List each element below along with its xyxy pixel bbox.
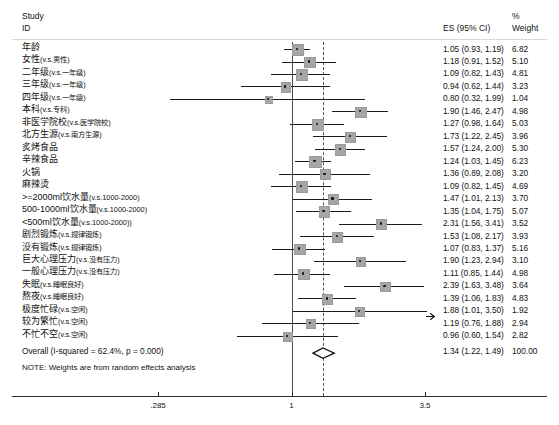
study-label-main: 火锅	[22, 167, 40, 177]
weight-box	[281, 82, 292, 93]
pooled-estimate-line	[323, 42, 324, 396]
weight-value: 4.98	[512, 269, 528, 277]
study-label-main: 三年级	[22, 79, 49, 89]
point-estimate-marker	[300, 73, 302, 75]
study-label: <500ml饮水量(v.s.1000-2000))	[22, 218, 132, 227]
study-label-main: 年龄	[22, 42, 40, 52]
weight-value: 4.81	[512, 69, 528, 77]
weight-box	[332, 232, 343, 243]
note-text: NOTE: Weights are from random effects an…	[22, 364, 196, 372]
study-label: >=2000ml饮水量(v.s.1000-2000)	[22, 193, 140, 202]
study-label-comparator: (v.s.南方生源)	[58, 130, 102, 139]
study-label-comparator: (v.s.男性)	[40, 55, 70, 64]
study-label-comparator: (v.s.睡眠良好)	[40, 280, 84, 289]
axis-tick	[292, 392, 293, 396]
effect-size-value: 1.09 (0.82, 1.45)	[443, 182, 504, 190]
study-label-main: 女性	[22, 54, 40, 64]
point-estimate-marker	[284, 85, 286, 87]
weight-value: 3.96	[512, 132, 528, 140]
study-label-main: 熬夜	[22, 291, 40, 301]
weight-value: 1.04	[512, 94, 528, 102]
study-label-comparator: (v.s.1000-2000)	[97, 205, 148, 214]
study-label: 三年级(v.s.一年级)	[22, 80, 86, 89]
study-label-comparator: (v.s.没有压力)	[76, 255, 120, 264]
effect-size-value: 1.18 (0.91, 1.52)	[443, 57, 504, 65]
study-label-main: 剧烈锻炼	[22, 229, 58, 239]
study-label-main: 500-1000ml饮水量	[22, 204, 97, 214]
study-label-main: 巨大心理压力	[22, 254, 76, 264]
effect-size-value: 1.57 (1.24, 2.00)	[443, 144, 504, 152]
study-label-comparator: (v.s.1000-2000))	[79, 218, 132, 227]
effect-size-value: 1.11 (0.85, 1.44)	[443, 269, 503, 277]
study-label-main: 一般心理压力	[22, 266, 76, 276]
study-label-comparator: (v.s.规律锻炼)	[58, 243, 102, 252]
weight-box	[355, 107, 367, 119]
weight-value: 5.03	[512, 119, 528, 127]
overall-diamond	[311, 346, 336, 358]
axis-tick	[158, 392, 159, 396]
study-label-comparator: (v.s.一年级)	[49, 93, 86, 102]
effect-size-value: 1.36 (0.89, 2.08)	[443, 169, 504, 177]
study-label-comparator: (v.s.一年级)	[49, 68, 86, 77]
weight-box	[296, 69, 308, 81]
ci-right-arrow	[426, 307, 435, 316]
study-label: 二年级(v.s.一年级)	[22, 68, 86, 77]
weight-value: 4.69	[512, 182, 528, 190]
weight-value: 2.82	[512, 331, 528, 339]
study-label-main: 北方生源	[22, 129, 58, 139]
weight-box	[283, 332, 293, 342]
study-label-comparator: (v.s.空闲)	[58, 330, 88, 339]
weight-value: 4.83	[512, 294, 528, 302]
study-label: 500-1000ml饮水量(v.s.1000-2000)	[22, 205, 147, 214]
study-label-comparator: (v.s.专科)	[40, 105, 70, 114]
weight-value: 6.23	[512, 157, 528, 165]
column-header-pct: %	[512, 12, 520, 21]
study-label: 没有锻炼(v.s.规律锻炼)	[22, 243, 102, 252]
overall-label: Overall (I-squared = 62.4%, p = 0.000)	[22, 347, 164, 355]
effect-size-value: 1.35 (1.04, 1.75)	[443, 207, 504, 215]
point-estimate-marker	[383, 285, 385, 287]
study-label: 失眠(v.s.睡眠良好)	[22, 280, 84, 289]
study-label-comparator: (v.s.1000-2000)	[89, 193, 140, 202]
study-label: 非医学院校(v.s.医学院校)	[22, 118, 111, 127]
effect-size-value: 1.47 (1.01, 2.13)	[443, 194, 504, 202]
point-estimate-marker	[302, 272, 304, 274]
axis-tick-label: 1	[282, 402, 302, 410]
weight-value: 1.92	[512, 306, 528, 314]
study-label-main: 二年级	[22, 67, 49, 77]
axis-line	[12, 396, 547, 397]
study-label: 女性(v.s.男性)	[22, 55, 70, 64]
study-label-comparator: (v.s.规律锻炼)	[58, 230, 102, 239]
overall-weight: 100.00	[512, 347, 537, 355]
weight-box	[292, 44, 305, 57]
study-label-comparator: (v.s.没有压力)	[76, 267, 120, 276]
study-label-main: 极度忙碌	[22, 304, 58, 314]
effect-size-value: 1.19 (0.76, 1.88)	[443, 319, 504, 327]
weight-value: 3.70	[512, 194, 528, 202]
study-label: 本科(v.s.专科)	[22, 105, 70, 114]
effect-size-value: 1.73 (1.22, 2.45)	[443, 132, 504, 140]
study-label-main: 没有锻炼	[22, 242, 58, 252]
weight-box	[312, 119, 324, 131]
effect-size-value: 2.31 (1.56, 3.41)	[443, 219, 504, 227]
column-header-study: Study	[22, 12, 44, 21]
effect-size-value: 1.88 (1.01, 3.50)	[443, 306, 504, 314]
effect-size-value: 1.24 (1.03, 1.45)	[443, 157, 504, 165]
weight-value: 5.16	[512, 244, 528, 252]
weight-value: 3.93	[512, 232, 528, 240]
study-label-comparator: (v.s.空闲)	[58, 305, 88, 314]
weight-value: 3.64	[512, 281, 528, 289]
weight-value: 3.10	[512, 256, 528, 264]
point-estimate-marker	[326, 297, 328, 299]
weight-box	[265, 96, 274, 105]
axis-tick-label: 3.5	[415, 402, 435, 410]
weight-value: 3.23	[512, 82, 528, 90]
column-header-id: ID	[22, 24, 31, 33]
axis-tick	[425, 392, 426, 396]
point-estimate-marker	[339, 148, 341, 150]
weight-value: 3.52	[512, 219, 528, 227]
point-estimate-marker	[331, 197, 333, 199]
study-label-comparator: (v.s.一年级)	[49, 80, 86, 89]
weight-box	[306, 319, 316, 329]
weight-box	[309, 156, 321, 168]
